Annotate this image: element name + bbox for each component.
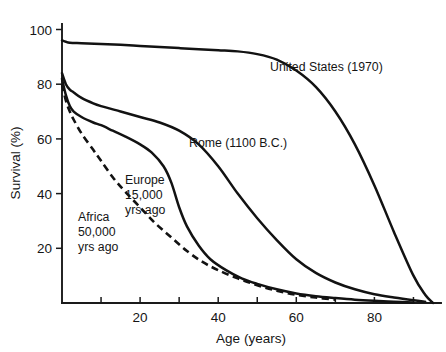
annotation-africa-line-3: yrs ago	[78, 240, 118, 254]
survivorship-curve-chart: 20406080100 20406080 United States (1970…	[0, 0, 446, 352]
x-axis-tick-labels: 20406080	[133, 310, 382, 325]
curve-united-states-1970	[62, 40, 433, 303]
curve-europe-15-000-yrs-ago	[62, 79, 413, 303]
y-tick-label-80: 80	[37, 77, 52, 92]
annotation-united-states-line-1: United States (1970)	[270, 60, 383, 74]
annotation-rome: Rome (1100 B.C.)	[189, 136, 287, 150]
y-axis-tick-labels: 20406080100	[29, 23, 52, 257]
annotation-africa-line-1: Africa	[78, 210, 110, 224]
y-tick-label-20: 20	[37, 241, 52, 256]
curve-annotations: United States (1970)Rome (1100 B.C.)Euro…	[78, 60, 383, 254]
annotation-europe-line-2: 15,000	[125, 188, 163, 202]
plot-axes	[62, 24, 441, 303]
annotation-europe: Europe15,000yrs ago	[125, 173, 165, 217]
annotation-europe-line-1: Europe	[125, 173, 165, 187]
x-tick-label-40: 40	[211, 310, 226, 325]
curve-africa-50-000-yrs-ago	[62, 84, 335, 300]
annotation-europe-line-3: yrs ago	[125, 203, 165, 217]
x-tick-label-80: 80	[367, 310, 382, 325]
x-tick-label-20: 20	[133, 310, 148, 325]
y-tick-label-60: 60	[37, 132, 52, 147]
x-tick-label-60: 60	[289, 310, 304, 325]
y-tick-label-40: 40	[37, 187, 52, 202]
curve-rome-1100-b-c	[62, 73, 425, 301]
annotation-rome-line-1: Rome (1100 B.C.)	[189, 136, 287, 150]
y-tick-label-100: 100	[29, 23, 52, 38]
annotation-africa-line-2: 50,000	[78, 225, 116, 239]
y-axis-title: Survival (%)	[8, 127, 23, 200]
annotation-africa: Africa50,000yrs ago	[78, 210, 118, 254]
data-curves	[62, 40, 433, 303]
x-axis-title: Age (years)	[216, 331, 286, 346]
annotation-united-states: United States (1970)	[270, 60, 383, 74]
